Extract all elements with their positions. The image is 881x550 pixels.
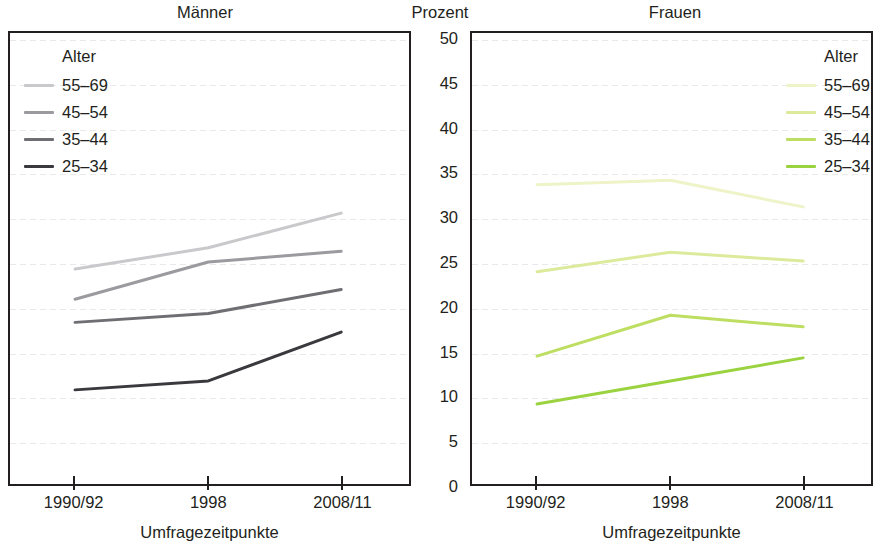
legend-item-label: 35–44 bbox=[824, 130, 870, 149]
x-tick-mark bbox=[73, 476, 75, 490]
legend-item-label: 55–69 bbox=[62, 76, 108, 95]
y-tick-label: 15 bbox=[440, 344, 458, 360]
series-line-45-54 bbox=[75, 251, 341, 299]
legend-item-label: 25–34 bbox=[62, 157, 108, 176]
legend-item-55-69[interactable]: 55–69 bbox=[786, 72, 870, 99]
x-tick-mark bbox=[803, 476, 805, 490]
y-tick-label: 10 bbox=[440, 388, 458, 404]
y-tick-label: 25 bbox=[440, 254, 458, 270]
y-tick-label: 40 bbox=[440, 120, 458, 136]
x-tick-label: 1998 bbox=[652, 493, 689, 512]
figure-root: Männer Prozent Frauen 504540353025201510… bbox=[0, 0, 881, 550]
x-axis-maenner: Umfragezeitpunkte 1990/9219982008/11 bbox=[8, 486, 411, 546]
right-panel-title: Frauen bbox=[470, 3, 880, 22]
legend-item-35-44[interactable]: 35–44 bbox=[24, 126, 108, 153]
x-tick-mark bbox=[535, 476, 537, 490]
legend-swatch-icon bbox=[24, 165, 54, 168]
series-line-25-34 bbox=[537, 358, 803, 404]
y-tick-label: 5 bbox=[449, 433, 458, 449]
legend-swatch-icon bbox=[24, 84, 54, 87]
legend-swatch-icon bbox=[786, 138, 816, 141]
legend-item-45-54[interactable]: 45–54 bbox=[786, 99, 870, 126]
y-tick-label: 0 bbox=[449, 478, 458, 494]
y-tick-label: 45 bbox=[440, 75, 458, 91]
y-tick-label: 30 bbox=[440, 209, 458, 225]
x-tick-label: 2008/11 bbox=[313, 493, 371, 512]
legend-swatch-icon bbox=[24, 138, 54, 141]
series-line-55-69 bbox=[537, 180, 803, 207]
legend-maenner: Alter 55–6945–5435–4425–34 bbox=[24, 47, 108, 180]
x-axis-title-maenner: Umfragezeitpunkte bbox=[8, 523, 411, 542]
x-tick-mark bbox=[669, 476, 671, 490]
legend-item-label: 25–34 bbox=[824, 157, 870, 176]
legend-frauen: Alter 55–6945–5435–4425–34 bbox=[786, 47, 870, 180]
legend-item-25-34[interactable]: 25–34 bbox=[24, 153, 108, 180]
y-tick-label: 20 bbox=[440, 299, 458, 315]
legend-item-label: 55–69 bbox=[824, 76, 870, 95]
x-tick-mark bbox=[207, 476, 209, 490]
series-line-45-54 bbox=[537, 252, 803, 272]
x-tick-label: 1990/92 bbox=[506, 493, 566, 512]
x-tick-label: 1990/92 bbox=[44, 493, 104, 512]
legend-swatch-icon bbox=[786, 111, 816, 114]
y-axis: 50454035302520151050 bbox=[398, 31, 464, 486]
y-tick-label: 35 bbox=[440, 164, 458, 180]
legend-item-label: 35–44 bbox=[62, 130, 108, 149]
x-tick-label: 1998 bbox=[190, 493, 227, 512]
x-axis-title-frauen: Umfragezeitpunkte bbox=[470, 523, 873, 542]
legend-title-maenner: Alter bbox=[62, 47, 108, 66]
legend-item-label: 45–54 bbox=[824, 103, 870, 122]
series-line-25-34 bbox=[75, 332, 341, 390]
series-line-35-44 bbox=[537, 315, 803, 356]
legend-swatch-icon bbox=[24, 111, 54, 114]
legend-item-label: 45–54 bbox=[62, 103, 108, 122]
legend-swatch-icon bbox=[786, 165, 816, 168]
left-panel-title: Männer bbox=[0, 3, 410, 22]
x-tick-label: 2008/11 bbox=[775, 493, 833, 512]
x-axis-frauen: Umfragezeitpunkte 1990/9219982008/11 bbox=[470, 486, 873, 546]
x-tick-mark bbox=[341, 476, 343, 490]
legend-item-25-34[interactable]: 25–34 bbox=[786, 153, 870, 180]
legend-swatch-icon bbox=[786, 84, 816, 87]
legend-item-45-54[interactable]: 45–54 bbox=[24, 99, 108, 126]
y-tick-label: 50 bbox=[440, 30, 458, 46]
series-line-35-44 bbox=[75, 290, 341, 323]
legend-item-55-69[interactable]: 55–69 bbox=[24, 72, 108, 99]
legend-item-35-44[interactable]: 35–44 bbox=[786, 126, 870, 153]
legend-title-frauen: Alter bbox=[824, 47, 870, 66]
